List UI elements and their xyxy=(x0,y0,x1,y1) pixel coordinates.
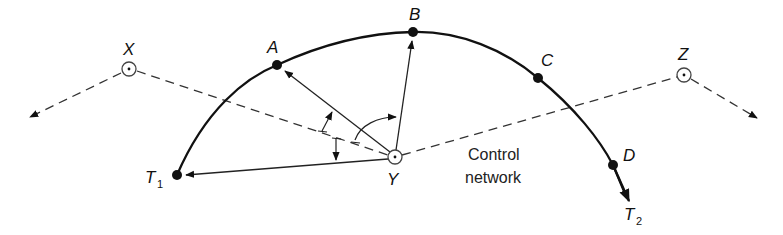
point-t1 xyxy=(172,170,182,180)
label-point-d: D xyxy=(623,146,635,165)
traverse-leg-y-z xyxy=(402,77,677,155)
control-network-label: Control network xyxy=(465,146,522,186)
curve-end-arrow xyxy=(613,165,629,201)
label-point-c: C xyxy=(541,51,554,70)
label-station-z: Z xyxy=(677,45,689,64)
svg-text:T: T xyxy=(145,168,157,187)
angle-arc-to-b xyxy=(355,117,396,140)
point-a xyxy=(272,60,282,70)
station-x-icon xyxy=(122,62,136,76)
traverse-leg-x-left xyxy=(30,73,121,117)
angle-marker-to-a xyxy=(322,112,332,131)
svg-text:2: 2 xyxy=(636,215,642,227)
point-d xyxy=(608,160,618,170)
traverse-leg-z-right xyxy=(691,79,757,118)
control-traverse xyxy=(30,71,757,155)
svg-text:T: T xyxy=(624,205,636,224)
svg-text:Control: Control xyxy=(468,146,520,163)
label-point-a: A xyxy=(266,38,278,57)
angle-tick-a xyxy=(318,131,327,132)
ray-y-t1 xyxy=(186,159,388,175)
point-b xyxy=(408,27,418,37)
svg-text:1: 1 xyxy=(157,178,163,190)
traverse-leg-x-y xyxy=(137,71,388,155)
ray-y-a xyxy=(285,71,390,152)
station-z-icon xyxy=(677,68,691,82)
label-station-y: Y xyxy=(387,170,400,189)
setting-out-diagram: X Y Z A B C D T 1 T 2 Control network xyxy=(0,0,783,235)
point-c xyxy=(533,73,543,83)
station-y-icon xyxy=(388,150,402,164)
ray-y-b xyxy=(396,41,412,150)
label-point-t2: T 2 xyxy=(624,205,642,227)
label-point-t1: T 1 xyxy=(145,168,163,190)
label-point-b: B xyxy=(409,5,420,24)
svg-text:network: network xyxy=(465,169,522,186)
label-station-x: X xyxy=(122,40,135,59)
